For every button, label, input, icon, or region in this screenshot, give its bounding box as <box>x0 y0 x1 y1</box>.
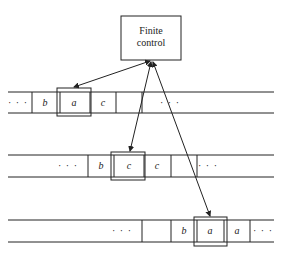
head-3-arrow <box>153 62 210 216</box>
tape-1: · · · b a c · · · <box>8 88 274 116</box>
finite-control-label-1: Finite <box>139 25 163 36</box>
tape-3: · · · b a a · · · <box>8 217 274 246</box>
finite-control-box: Finite control <box>121 16 181 60</box>
multitape-turing-machine-diagram: Finite control · · · b a c · · · · · · b… <box>0 0 282 257</box>
tape-2-cell-3: c <box>155 160 160 171</box>
tape-3-cell-0: · · · <box>112 225 132 236</box>
tape-2-cell-1: b <box>99 160 104 171</box>
tape-1-cell-0: · · · <box>8 97 28 108</box>
tape-3-cell-3: a <box>208 225 213 236</box>
tape-1-cell-2: a <box>72 97 77 108</box>
head-2-arrow <box>130 62 151 151</box>
tape-1-cell-1: b <box>43 97 48 108</box>
finite-control-label-2: control <box>137 37 166 48</box>
tape-2: · · · b c c · · · <box>8 152 274 180</box>
head-1-arrow <box>74 61 150 87</box>
tape-2-cell-2: c <box>127 160 132 171</box>
tape-3-cell-4: a <box>235 225 240 236</box>
tape-1-cell-5: · · · <box>160 97 180 108</box>
tape-3-cell-5: · · · <box>253 225 273 236</box>
tape-2-cell-5: · · · <box>198 160 218 171</box>
tape-1-cell-3: c <box>101 97 106 108</box>
tape-3-cell-2: b <box>182 225 187 236</box>
tape-2-cell-0: · · · <box>58 160 78 171</box>
